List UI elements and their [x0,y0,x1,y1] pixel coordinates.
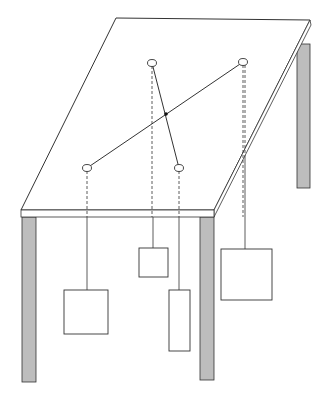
anchor-ring-d [175,165,184,172]
anchor-ring-b [239,59,248,66]
weight-b [221,249,272,300]
table-leg-front-left [22,217,36,382]
tabletop-front-edge [21,210,214,217]
weight-d [169,290,190,351]
hanging-weights [64,248,272,351]
table-leg-front-right [200,217,214,380]
pivot-dot [164,112,168,116]
anchor-ring-a [148,60,157,67]
table-leg-back-right [297,44,310,188]
table-mobile-diagram [0,0,326,400]
weight-a [139,248,168,277]
anchor-ring-c [83,165,92,172]
weight-c [64,290,108,334]
